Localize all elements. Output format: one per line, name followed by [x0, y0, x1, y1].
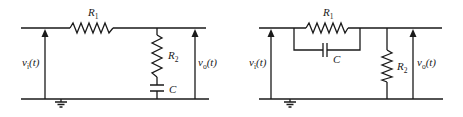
left-r2-label: R2 — [167, 49, 179, 64]
left-input-arrow-icon — [42, 29, 49, 37]
left-r1-label: R1 — [87, 6, 99, 21]
right-output-label: vo(t) — [417, 56, 436, 71]
left-r1-resistor-icon — [70, 23, 113, 33]
left-ground-icon — [55, 99, 67, 107]
left-input-label: vi(t) — [22, 56, 40, 71]
left-r2-resistor-icon — [152, 35, 162, 77]
right-output-arrow-icon — [410, 29, 417, 37]
right-input-label: vi(t) — [249, 56, 267, 71]
right-r1-resistor-icon — [306, 23, 348, 33]
right-r2-resistor-icon — [382, 50, 392, 82]
right-r2-label: R2 — [396, 60, 408, 75]
left-capacitor-icon — [150, 85, 164, 91]
right-ground-icon — [284, 99, 296, 107]
right-r1-label: R1 — [322, 6, 334, 21]
left-output-arrow-icon — [192, 29, 199, 37]
right-c-label: C — [333, 53, 341, 65]
right-capacitor-icon — [323, 43, 327, 57]
left-c-label: C — [169, 83, 177, 95]
left-output-label: vo(t) — [198, 56, 217, 71]
circuit-figure: R1 vi(t) R2 C vo(t) R1 C — [0, 0, 463, 117]
left-circuit: R1 vi(t) R2 C vo(t) — [21, 6, 217, 107]
right-circuit: R1 C vi(t) R2 vo(t) — [249, 6, 443, 107]
right-input-arrow-icon — [268, 29, 275, 37]
